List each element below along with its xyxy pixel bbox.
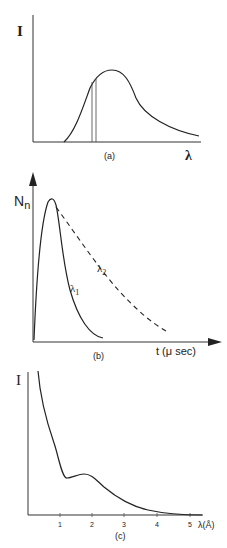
panel-a: I (a) λ: [17, 15, 201, 163]
c-intensity-curve: [38, 371, 202, 515]
c-y-label: I: [16, 372, 21, 388]
b-label-lambda2: λ2: [97, 262, 106, 277]
svg-text:4: 4: [155, 521, 159, 528]
panel-b: Nn λ1 λ2 (b) t (μ sec): [14, 172, 222, 361]
c-caption: (c): [115, 531, 126, 541]
panel-c: I 1 2 3 4 5 λ(Å) (c): [16, 371, 215, 541]
b-curve-lambda2: [56, 207, 166, 331]
a-spectrum-curve: [64, 70, 199, 142]
a-caption: (a): [104, 151, 115, 161]
b-curve-lambda1: [34, 199, 103, 340]
svg-text:1: 1: [58, 521, 62, 528]
c-x-tick-labels: 1 2 3 4 5: [58, 521, 192, 528]
b-y-arrow-icon: [29, 172, 37, 186]
c-x-label: λ(Å): [198, 520, 215, 530]
b-x-arrow-icon: [208, 338, 222, 346]
a-y-label: I: [17, 23, 23, 39]
b-y-label: Nn: [14, 193, 30, 211]
svg-text:5: 5: [188, 521, 192, 528]
svg-text:3: 3: [122, 521, 126, 528]
figure-canvas: I (a) λ Nn λ1 λ2 (b) t (μ sec) I 1 2: [0, 0, 227, 548]
b-caption: (b): [93, 351, 104, 361]
b-x-label: t (μ sec): [156, 345, 196, 357]
a-x-label: λ: [185, 148, 192, 163]
svg-text:2: 2: [90, 521, 94, 528]
